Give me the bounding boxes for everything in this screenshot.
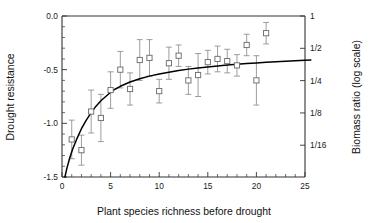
data-point-marker (166, 61, 171, 66)
y-tick-label-right: 1/2 (310, 43, 322, 53)
plot-canvas: 05101520250.0-0.5-1.0-1.511/21/41/81/16 … (0, 0, 372, 223)
y-axis-title-left: Drought resistance (5, 53, 16, 140)
data-point-marker (195, 72, 200, 77)
tick-marks (62, 16, 305, 177)
data-point-marker (137, 57, 142, 62)
data-point-marker (108, 87, 113, 92)
tick-labels: 05101520250.0-0.5-1.0-1.511/21/41/81/16 (44, 11, 327, 191)
y-tick-label-left: 0.0 (46, 11, 58, 21)
x-axis-title: Plant species richness before drought (97, 206, 271, 217)
error-bars (69, 22, 269, 165)
data-point-marker (89, 109, 94, 114)
y-tick-label-right: 1/4 (310, 76, 322, 86)
data-point-marker (186, 78, 191, 83)
y-tick-label-right: 1/8 (310, 108, 322, 118)
x-tick-label: 25 (300, 181, 310, 191)
y-tick-label-right: 1 (310, 11, 315, 21)
y-tick-label-left: -1.0 (44, 118, 59, 128)
y-tick-label-left: -0.5 (44, 65, 59, 75)
data-point-marker (234, 63, 239, 68)
data-point-marker (244, 42, 249, 47)
x-tick-label: 0 (60, 181, 65, 191)
data-point-marker (69, 137, 74, 142)
x-tick-label: 5 (108, 181, 113, 191)
data-point-marker (264, 31, 269, 36)
data-point-marker (118, 67, 123, 72)
x-tick-label: 15 (203, 181, 213, 191)
data-point-marker (157, 89, 162, 94)
data-point-marker (147, 55, 152, 60)
data-point-marker (79, 148, 84, 153)
data-point-marker (254, 78, 259, 83)
y-tick-label-right: 1/16 (310, 140, 327, 150)
data-point-marker (215, 56, 220, 61)
y-tick-label-left: -1.5 (44, 172, 59, 182)
axes (62, 16, 305, 177)
data-point-marker (225, 58, 230, 63)
x-tick-label: 20 (252, 181, 262, 191)
data-point-marker (176, 53, 181, 58)
data-point-marker (127, 86, 132, 91)
x-tick-label: 10 (155, 181, 165, 191)
data-point-marker (205, 60, 210, 65)
data-point-marker (98, 115, 103, 120)
y-axis-title-right: Biomass ratio (log scale) (351, 40, 362, 154)
chart-figure: 05101520250.0-0.5-1.0-1.511/21/41/81/16 … (0, 0, 372, 223)
